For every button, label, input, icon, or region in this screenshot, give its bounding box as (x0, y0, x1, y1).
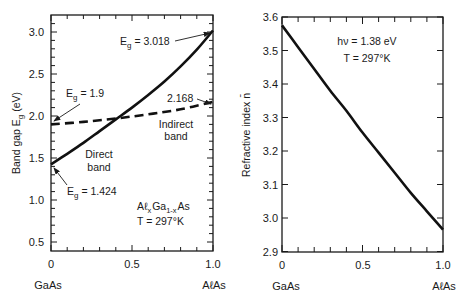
y-tick-label: 1.5 (29, 152, 44, 164)
indirect-band-label: Indirect band (159, 118, 194, 142)
x-end-label-gaas: GaAs (34, 279, 62, 291)
svg-text:band: band (164, 130, 188, 142)
y-tick-label: 3.3 (263, 112, 278, 124)
y-tick-label: 0.5 (29, 236, 44, 248)
x-tick-label: 1.0 (205, 258, 220, 270)
left-y-tick-labels: 3.0 2.5 2.0 1.5 1.0 0.5 (29, 26, 44, 248)
y-tick-label: 3.0 (263, 212, 278, 224)
y-tick-label: 1.0 (29, 194, 44, 206)
svg-text:Eg = 1.424: Eg = 1.424 (67, 185, 117, 200)
refractive-index-chart: 3.6 3.5 3.4 3.3 3.2 3.1 3.0 2.9 0 0.5 1.… (240, 11, 456, 292)
y-tick-label: 3.2 (263, 145, 278, 157)
material-label: AℓxGa1-xAs T = 297°K (137, 200, 190, 227)
direct-band-label: Direct band (85, 148, 113, 173)
y-tick-label: 2.5 (29, 68, 44, 80)
x-tick-label: 0 (48, 258, 54, 270)
svg-text:Indirect: Indirect (159, 118, 194, 130)
figure: 3.0 2.5 2.0 1.5 1.0 0.5 0 0.5 1.0 GaAs A… (0, 0, 466, 296)
left-x-tick-labels: 0 0.5 1.0 GaAs AℓAs (34, 258, 226, 291)
band-gap-chart: 3.0 2.5 2.0 1.5 1.0 0.5 0 0.5 1.0 GaAs A… (10, 15, 226, 291)
y-tick-label: 3.1 (263, 179, 278, 191)
right-y-axis-title: Refractive index n̄ (240, 93, 252, 177)
svg-text:Eg = 3.018: Eg = 3.018 (120, 35, 170, 50)
annotation-2168: 2.168 (167, 92, 211, 104)
annotation-eg-3018: Eg = 3.018 (120, 33, 210, 50)
arrow-icon (54, 168, 67, 185)
x-end-label-alas: AℓAs (202, 279, 226, 291)
arrow-icon (54, 104, 80, 121)
svg-text:AℓxGa1-xAs: AℓxGa1-xAs (137, 200, 190, 215)
x-tick-label: 1.0 (435, 259, 450, 271)
x-tick-label: 0 (279, 259, 285, 271)
x-end-label-alas: AℓAs (432, 280, 456, 292)
y-tick-label: 3.4 (263, 78, 278, 90)
svg-text:band: band (87, 161, 111, 173)
x-tick-label: 0.5 (355, 259, 370, 271)
y-tick-label: 3.5 (263, 45, 278, 57)
x-tick-label: 0.5 (124, 258, 139, 270)
y-tick-label: 2.9 (263, 246, 278, 258)
svg-text:2.168: 2.168 (167, 92, 193, 104)
temperature-label: T = 297°K (137, 215, 184, 227)
left-y-axis-title: Band gap Eg (eV) (10, 92, 25, 174)
left-plot-frame (51, 15, 213, 251)
annotation-eg-19: Eg = 1.9 (54, 87, 104, 121)
x-end-label-gaas: GaAs (272, 280, 300, 292)
y-tick-label: 3.6 (263, 11, 278, 23)
left-axis-ticks (51, 15, 213, 251)
photon-energy-label: hν = 1.38 eV (337, 35, 396, 47)
right-y-tick-labels: 3.6 3.5 3.4 3.3 3.2 3.1 3.0 2.9 (263, 11, 278, 258)
temperature-label-right: T = 297°K (344, 52, 391, 64)
svg-text:Eg = 1.9: Eg = 1.9 (66, 87, 104, 102)
right-x-tick-labels: 0 0.5 1.0 GaAs AℓAs (272, 259, 456, 292)
svg-text:Direct: Direct (85, 148, 113, 160)
y-tick-label: 3.0 (29, 26, 44, 38)
y-tick-label: 2.0 (29, 110, 44, 122)
